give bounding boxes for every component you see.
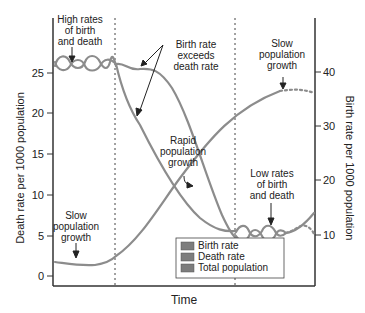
annotation-slow-growth-bottom: Slowpopulationgrowth bbox=[53, 210, 99, 243]
left-ticks bbox=[47, 73, 53, 276]
right-tick-labels: 40 30 20 10 bbox=[323, 66, 335, 241]
annotation-rapid-growth: Rapidpopulationgrowth bbox=[160, 135, 206, 168]
arrow-head-icon bbox=[136, 108, 142, 116]
birth-rate-line-stage3-rise bbox=[286, 213, 314, 233]
legend-swatch-total-population bbox=[181, 264, 194, 272]
tick-label: 30 bbox=[323, 120, 335, 132]
tick-label: 10 bbox=[32, 189, 44, 201]
legend: Birth rate Death rate Total population bbox=[176, 238, 284, 278]
tick-label: 20 bbox=[32, 107, 44, 119]
total-population-line-projection bbox=[280, 90, 314, 93]
tick-label: 5 bbox=[38, 230, 44, 242]
legend-swatch-death-rate bbox=[181, 253, 194, 261]
annotation-low-rates: Low ratesof birthand death bbox=[250, 168, 295, 201]
tick-label: 20 bbox=[323, 174, 335, 186]
y-axis-label-right: Birth rate per 1000 population bbox=[344, 96, 356, 241]
tick-label: 10 bbox=[323, 229, 335, 241]
right-ticks bbox=[315, 72, 321, 235]
annotation-slow-growth-top: Slowpopulationgrowth bbox=[259, 38, 305, 71]
arrow-head-icon bbox=[268, 218, 274, 225]
left-tick-labels: 25 20 15 10 5 0 bbox=[32, 67, 44, 282]
arrow-head-icon bbox=[141, 60, 147, 66]
annotation-high-rates: High ratesof birthand death bbox=[57, 14, 103, 47]
legend-label-total-population: Total population bbox=[198, 262, 268, 273]
annotation-birth-exceeds: Birth rateexceedsdeath rate bbox=[173, 39, 218, 72]
tick-label: 25 bbox=[32, 67, 44, 79]
arrow-head-icon bbox=[73, 251, 79, 258]
legend-swatch-birth-rate bbox=[181, 242, 194, 250]
arrow-head-icon bbox=[280, 83, 286, 89]
tick-label: 40 bbox=[323, 66, 335, 78]
x-axis-label: Time bbox=[171, 293, 198, 307]
legend-label-birth-rate: Birth rate bbox=[198, 240, 239, 251]
arrow-exceeds-2 bbox=[139, 45, 163, 113]
demographic-transition-chart: 25 20 15 10 5 0 40 30 20 10 Death rate p… bbox=[0, 0, 365, 313]
tick-label: 15 bbox=[32, 148, 44, 160]
legend-label-death-rate: Death rate bbox=[198, 251, 245, 262]
tick-label: 0 bbox=[38, 270, 44, 282]
arrow-head-icon bbox=[187, 182, 193, 188]
y-axis-label-left: Death rate per 1000 population bbox=[14, 92, 26, 244]
